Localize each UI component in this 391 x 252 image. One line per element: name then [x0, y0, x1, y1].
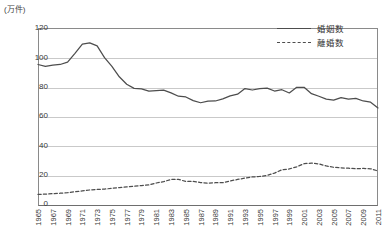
x-tick-label: 2011	[374, 209, 383, 225]
legend-label: 離婚数	[317, 36, 344, 48]
x-tick-label: 1983	[167, 209, 176, 226]
legend-line-dashed-icon	[277, 37, 311, 47]
x-tick-label: 1999	[285, 209, 294, 226]
x-tick-label: 1991	[226, 209, 235, 226]
x-tick-label: 1965	[34, 209, 43, 226]
x-tick-label: 2005	[330, 209, 339, 226]
chart-container: (万件) 120 100 80 60 40 20 0 婚姻数 離婚数 19651…	[0, 0, 391, 252]
x-tick-label: 1997	[271, 209, 280, 226]
x-tick-label: 1971	[78, 209, 87, 226]
x-tick-label: 2007	[344, 209, 353, 226]
legend-line-solid-icon	[277, 23, 311, 33]
legend-item-marriage: 婚姻数	[277, 22, 378, 34]
x-tick-label: 1995	[256, 209, 265, 226]
x-tick-label: 1989	[211, 209, 220, 226]
x-tick-label: 1973	[93, 209, 102, 226]
x-tick-label: 1987	[197, 209, 206, 226]
x-tick-label: 1967	[49, 209, 58, 226]
x-tick-label: 2001	[300, 209, 309, 226]
legend-item-divorce: 離婚数	[277, 36, 378, 48]
x-tick-label: 1979	[137, 209, 146, 226]
x-tick-label: 1981	[152, 209, 161, 226]
x-tick-label: 1977	[123, 209, 132, 226]
x-tick-label: 1969	[64, 209, 73, 226]
legend-label: 婚姻数	[317, 22, 344, 34]
x-tick-label: 1985	[182, 209, 191, 226]
legend: 婚姻数 離婚数	[277, 22, 378, 54]
x-tick-label: 1975	[108, 209, 117, 226]
x-tick-label: 2003	[315, 209, 324, 226]
x-tick-label: 2009	[359, 209, 368, 226]
x-tick-label: 1993	[241, 209, 250, 226]
line-series-divorce	[38, 163, 378, 194]
